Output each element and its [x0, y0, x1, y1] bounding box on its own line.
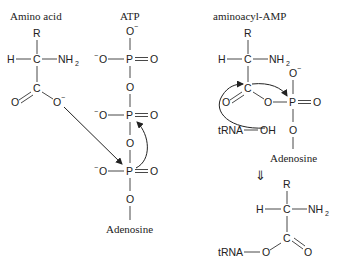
amino-group: NH	[58, 53, 73, 65]
svg-text:−: −	[94, 108, 98, 115]
svg-text:O: O	[150, 53, 158, 65]
acyl-carbon: C	[244, 82, 252, 94]
svg-text:C: C	[244, 53, 252, 65]
alpha-carbon: C	[33, 53, 41, 65]
atp-heading: ATP	[120, 10, 140, 22]
svg-text:−: −	[94, 52, 98, 59]
aminoacyl-amp-structure: aminoacyl-AMP R H C NH 2 C O O P O O − O…	[213, 10, 321, 164]
svg-text:O: O	[289, 124, 297, 136]
adenosine-label-amp: Adenosine	[270, 152, 317, 164]
pyrophosphate-leaving-arrow	[136, 122, 147, 168]
svg-text:C: C	[283, 203, 291, 215]
alpha-phosphorus: P	[126, 165, 133, 177]
amp-leaving-arrow	[252, 84, 287, 96]
atp-structure: ATP O − − O P O O − O P O O − O P O O	[94, 10, 158, 235]
svg-text:O: O	[222, 96, 230, 108]
svg-text:2: 2	[325, 210, 329, 217]
r-group: R	[33, 27, 41, 39]
svg-text:P: P	[289, 96, 296, 108]
svg-text:O: O	[304, 246, 312, 258]
adenosine-label-atp: Adenosine	[106, 223, 153, 235]
svg-text:O: O	[262, 246, 270, 258]
trna-hydroxyl: OH	[260, 124, 276, 136]
svg-text:O: O	[126, 193, 134, 205]
carboxyl-carbon: C	[33, 82, 41, 94]
svg-text:O: O	[150, 165, 158, 177]
svg-text:2: 2	[286, 60, 290, 67]
svg-text:−: −	[134, 23, 138, 30]
svg-text:2: 2	[75, 60, 79, 67]
svg-text:−: −	[94, 164, 98, 171]
svg-text:NH: NH	[269, 53, 284, 65]
svg-text:R: R	[244, 27, 252, 39]
svg-text:O: O	[150, 109, 158, 121]
svg-text:O: O	[99, 53, 107, 65]
carboxylate-oxygen: O	[53, 96, 61, 108]
svg-text:O: O	[126, 81, 134, 93]
aminoacyl-trna-structure: R H C NH 2 C O O tRNA	[218, 178, 329, 258]
svg-text:−: −	[297, 65, 301, 72]
nucleophilic-attack-arrow	[64, 107, 122, 164]
svg-text:H: H	[218, 53, 226, 65]
transition-arrow: ⇓	[255, 168, 266, 183]
alpha-hydrogen: H	[7, 53, 15, 65]
beta-phosphorus: P	[126, 109, 133, 121]
svg-text:O: O	[264, 96, 272, 108]
svg-text:tRNA: tRNA	[218, 246, 243, 258]
amino-acid-structure: Amino acid R H C NH 2 C O O −	[7, 10, 79, 108]
reaction-diagram: Amino acid R H C NH 2 C O O − ATP O − − …	[0, 0, 337, 264]
carbonyl-oxygen: O	[11, 96, 19, 108]
svg-text:−: −	[61, 94, 65, 101]
svg-text:C: C	[283, 232, 291, 244]
svg-text:R: R	[283, 178, 291, 190]
svg-text:O: O	[126, 25, 134, 37]
aminoacyl-amp-heading: aminoacyl-AMP	[213, 10, 286, 22]
gamma-phosphorus: P	[126, 53, 133, 65]
svg-text:NH: NH	[308, 203, 323, 215]
svg-text:O: O	[313, 96, 321, 108]
svg-text:O: O	[289, 67, 297, 79]
svg-text:O: O	[99, 109, 107, 121]
svg-text:O: O	[99, 165, 107, 177]
amino-acid-heading: Amino acid	[10, 10, 62, 22]
svg-text:O: O	[126, 137, 134, 149]
svg-text:H: H	[256, 203, 264, 215]
